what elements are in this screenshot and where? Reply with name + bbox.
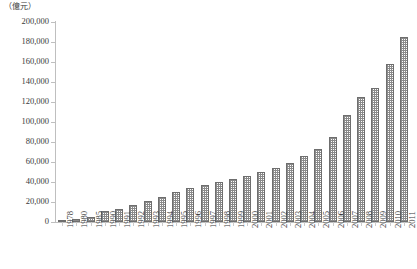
y-axis-tick [51, 82, 56, 83]
bar-slot [240, 22, 254, 222]
bar-slot [354, 22, 368, 222]
bar [329, 137, 337, 222]
bar-slot [112, 22, 126, 222]
x-axis-tick-label: 2003 [294, 211, 303, 228]
x-axis-tick [390, 222, 391, 226]
x-axis-tick [333, 222, 334, 226]
bar-slot [269, 22, 283, 222]
x-axis-tick [361, 222, 362, 226]
y-axis-tick-label: 40,000 [0, 177, 49, 186]
y-axis-labels: 200,000180,000160,000140,000120,000100,0… [0, 0, 49, 269]
y-axis-tick-label: 200,000 [0, 17, 49, 26]
bar-slot [340, 22, 354, 222]
y-axis-tick-label: 160,000 [0, 57, 49, 66]
y-axis-tick [51, 222, 56, 223]
x-axis-tick-label: 1998 [223, 211, 232, 228]
x-axis-tick [290, 222, 291, 226]
x-axis-tick-label: 2006 [337, 211, 346, 228]
y-axis-tick [51, 62, 56, 63]
x-axis-tick [62, 222, 63, 226]
x-axis-tick [190, 222, 191, 226]
x-axis-tick [105, 222, 106, 226]
x-axis-tick [261, 222, 262, 226]
bar-slot [183, 22, 197, 222]
bar [357, 97, 365, 222]
x-axis-tick [276, 222, 277, 226]
y-axis-tick-label: 180,000 [0, 37, 49, 46]
x-axis-tick-label: 2009 [379, 211, 388, 228]
x-axis-tick [247, 222, 248, 226]
bar-slot [83, 22, 97, 222]
x-axis-tick-label: 2001 [265, 211, 274, 228]
bar-slot [383, 22, 397, 222]
bar-slot [311, 22, 325, 222]
x-axis-tick-label: 2000 [251, 211, 260, 228]
x-axis-tick [119, 222, 120, 226]
bar-slot [126, 22, 140, 222]
bar [386, 64, 394, 222]
y-axis-tick [51, 22, 56, 23]
x-axis-tick-label: 1995 [180, 211, 189, 228]
bar-slot [226, 22, 240, 222]
x-axis-tick [133, 222, 134, 226]
y-axis-tick-label: 120,000 [0, 97, 49, 106]
x-axis-tick [347, 222, 348, 226]
x-axis-tick [76, 222, 77, 226]
x-axis-tick-label: 2008 [365, 211, 374, 228]
y-axis-tick-label: 140,000 [0, 77, 49, 86]
bar [371, 88, 379, 222]
x-axis-tick-label: 2004 [308, 211, 317, 228]
y-axis-tick [51, 162, 56, 163]
bar-slot [368, 22, 382, 222]
x-axis-tick [148, 222, 149, 226]
bar-slot [155, 22, 169, 222]
x-axis-tick-label: 1980 [80, 211, 89, 228]
x-axis-tick-label: 1993 [152, 211, 161, 228]
x-axis-tick [318, 222, 319, 226]
x-axis-tick-label: 1997 [209, 211, 218, 228]
bar [343, 115, 351, 222]
bar-slot [197, 22, 211, 222]
y-axis-tick [51, 42, 56, 43]
y-axis-tick [51, 182, 56, 183]
bar-slot [212, 22, 226, 222]
x-axis-tick-label: 1994 [166, 211, 175, 228]
bar-slot [55, 22, 69, 222]
x-axis-tick-label: 2010 [394, 211, 403, 228]
x-axis-tick-label: 1978 [66, 211, 75, 228]
bar-slot [397, 22, 411, 222]
x-axis-tick [176, 222, 177, 226]
y-axis-tick [51, 122, 56, 123]
y-axis-tick [51, 102, 56, 103]
x-axis-tick-label: 1991 [123, 211, 132, 228]
bar-slot [254, 22, 268, 222]
y-axis-tick-label: 0 [0, 217, 49, 226]
bar-slot [297, 22, 311, 222]
bar-slot [140, 22, 154, 222]
bar-slot [326, 22, 340, 222]
bar-slot [169, 22, 183, 222]
y-axis-tick-label: 80,000 [0, 137, 49, 146]
bar-slot [283, 22, 297, 222]
x-axis-tick-label: 2007 [351, 211, 360, 228]
x-axis-tick-label: 2002 [280, 211, 289, 228]
x-axis-tick [375, 222, 376, 226]
x-axis-tick [91, 222, 92, 226]
x-axis-tick-label: 2005 [322, 211, 331, 228]
x-axis-tick-label: 1985 [95, 211, 104, 228]
y-axis-tick [51, 142, 56, 143]
x-axis-tick [162, 222, 163, 226]
x-axis-tick [205, 222, 206, 226]
bar-slot [69, 22, 83, 222]
plot-area [55, 22, 411, 222]
x-axis-tick [219, 222, 220, 226]
x-axis-tick [304, 222, 305, 226]
y-axis-tick-label: 60,000 [0, 157, 49, 166]
bar-slot [98, 22, 112, 222]
y-axis-tick-label: 100,000 [0, 117, 49, 126]
x-axis-tick-label: 1996 [194, 211, 203, 228]
x-axis-tick-label: 1990 [109, 211, 118, 228]
x-axis-tick [404, 222, 405, 226]
y-axis-tick-label: 20,000 [0, 197, 49, 206]
